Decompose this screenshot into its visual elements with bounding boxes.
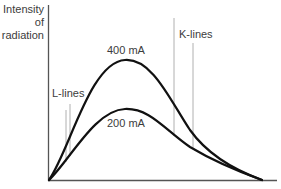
y-axis-label: Intensity of radiation xyxy=(0,3,44,42)
y-label-line-1: Intensity xyxy=(0,3,44,16)
series-label-400ma: 400 mA xyxy=(107,44,145,56)
series-label-200ma: 200 mA xyxy=(107,117,145,129)
y-label-line-2: of xyxy=(0,16,44,29)
y-label-line-3: radiation xyxy=(0,29,44,42)
l-lines-label: L-lines xyxy=(52,87,84,99)
k-lines-label: K-lines xyxy=(179,28,213,40)
curve-200ma xyxy=(49,109,262,180)
